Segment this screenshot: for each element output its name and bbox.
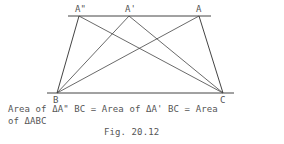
label-a2: A": [75, 4, 86, 14]
label-a: A: [196, 4, 202, 14]
segment-a-c: [199, 16, 223, 93]
figure-label: Fig. 20.12: [104, 127, 159, 137]
segment-a-b: [57, 16, 199, 93]
segment-a1-c: [129, 16, 223, 93]
label-a1: A': [125, 4, 136, 14]
label-c: C: [220, 95, 225, 105]
segment-a2-c: [79, 16, 223, 93]
caption-line-2: of ΔABC: [8, 116, 47, 126]
caption-line-1: Area of ΔA" BC = Area of ΔA' BC = Area: [8, 104, 218, 114]
